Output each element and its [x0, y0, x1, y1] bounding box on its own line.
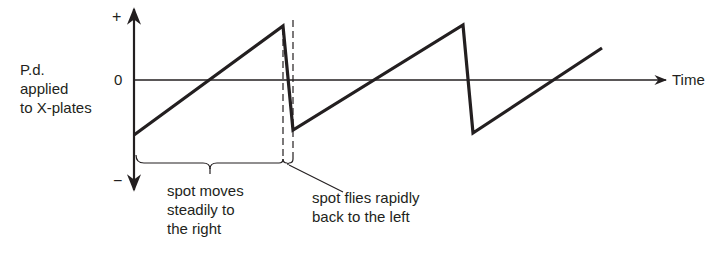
- y-tick-zero: 0: [114, 70, 122, 89]
- ramp-brace: [136, 155, 283, 169]
- sawtooth-diagram: P.d. applied to X-plates + 0 − Time spot…: [0, 0, 728, 255]
- flyback-brace: [283, 159, 293, 165]
- x-axis-label: Time: [672, 70, 705, 89]
- y-axis-label: P.d. applied to X-plates: [20, 60, 92, 117]
- ramp-annotation-line-3: the right: [167, 219, 244, 238]
- y-tick-minus: −: [113, 171, 122, 190]
- y-axis-label-line-2: applied: [20, 79, 92, 98]
- flyback-annotation-line-1: spot flies rapidly: [312, 188, 420, 207]
- flyback-annotation-line-2: back to the left: [312, 207, 420, 226]
- y-axis-label-line-1: P.d.: [20, 60, 92, 79]
- y-axis-label-line-3: to X-plates: [20, 98, 92, 117]
- ramp-annotation: spot moves steadily to the right: [167, 181, 244, 238]
- flyback-annotation: spot flies rapidly back to the left: [312, 188, 420, 226]
- y-tick-plus: +: [112, 7, 121, 26]
- ramp-annotation-line-2: steadily to: [167, 200, 244, 219]
- ramp-annotation-line-1: spot moves: [167, 181, 244, 200]
